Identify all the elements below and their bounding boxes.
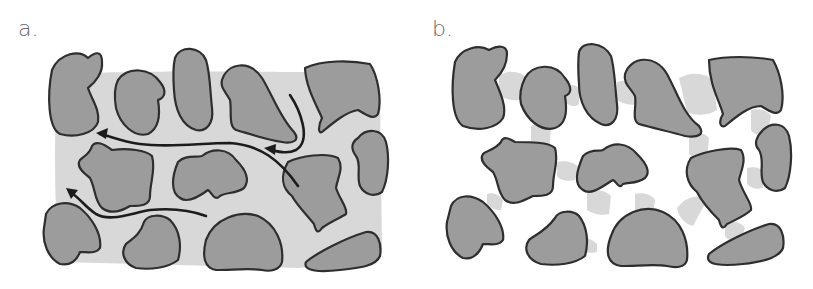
grain: [708, 224, 783, 265]
grain: [578, 44, 617, 125]
panel-label-b: b.: [432, 16, 453, 41]
grain: [577, 144, 648, 191]
grain: [526, 212, 587, 265]
grain: [520, 67, 570, 129]
panel-b: b.: [407, 0, 813, 289]
panel-a: a.: [0, 0, 406, 289]
panel-label-a: a.: [18, 16, 38, 41]
grain: [608, 209, 687, 267]
panel-a-diagram: [0, 0, 406, 289]
grain: [709, 57, 783, 126]
grain: [453, 47, 507, 129]
grain: [482, 138, 557, 203]
panel-b-diagram: [407, 0, 813, 289]
grain: [173, 150, 247, 200]
